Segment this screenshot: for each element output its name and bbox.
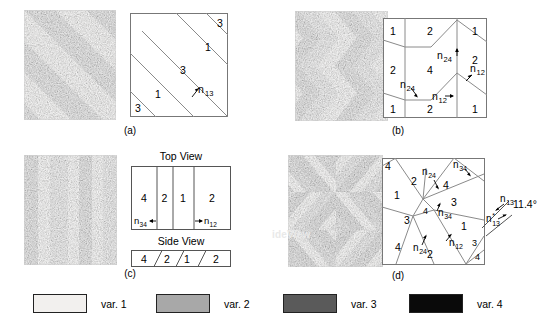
svg-text:13: 13 xyxy=(492,220,500,227)
region-label: 3 xyxy=(404,214,410,226)
svg-text:n: n xyxy=(449,237,455,248)
region-label: 3 xyxy=(180,64,186,76)
region-label: 1 xyxy=(155,88,161,100)
svg-text:n: n xyxy=(500,193,506,204)
schematic-d: 4 2 4 1 3 3 4 1 4 2 3 4 n 24 xyxy=(382,158,540,268)
legend-swatch-var-2 xyxy=(156,294,210,313)
legend-label-var-4: var. 4 xyxy=(477,298,503,310)
region-label: 4 xyxy=(141,253,147,265)
svg-text:12: 12 xyxy=(455,243,463,250)
region-label: 3 xyxy=(451,196,457,208)
region-label: 2 xyxy=(209,192,215,204)
svg-text:n: n xyxy=(134,215,139,226)
legend-swatch-var-1 xyxy=(33,294,87,313)
region-label: 1 xyxy=(184,253,190,265)
svg-text:24: 24 xyxy=(407,84,415,93)
annotation-n13-star: n * 13 xyxy=(486,212,507,227)
svg-text:n: n xyxy=(453,159,459,170)
region-label: 4 xyxy=(427,64,433,76)
svg-text:*: * xyxy=(492,212,495,219)
region-label: 2 xyxy=(427,103,433,115)
svg-text:n: n xyxy=(432,90,438,102)
legend-label-var-3: var. 3 xyxy=(351,298,377,310)
region-label: 2 xyxy=(213,253,219,265)
legend-item-var-2: var. 2 xyxy=(156,294,250,313)
region-label: 3 xyxy=(472,238,477,248)
svg-text:n: n xyxy=(438,207,444,218)
region-label: 1 xyxy=(472,103,478,115)
side-view-box: 4 2 1 2 xyxy=(132,251,231,267)
region-label: 2 xyxy=(411,175,417,187)
micrograph-d xyxy=(288,155,383,267)
micrograph-c xyxy=(24,155,117,265)
side-view-title: Side View xyxy=(158,235,205,247)
micrograph-a xyxy=(24,10,116,120)
region-label: 1 xyxy=(472,25,478,37)
region-label: 2 xyxy=(427,248,433,260)
svg-text:24: 24 xyxy=(428,172,436,179)
svg-text:n: n xyxy=(198,83,204,95)
angle-annotation-group: n 13 n * 13 11.4° xyxy=(482,193,537,236)
svg-text:24: 24 xyxy=(419,248,427,255)
region-label: 4 xyxy=(141,192,147,204)
svg-text:34: 34 xyxy=(459,165,467,172)
region-label: 1 xyxy=(180,192,186,204)
top-view-title: Top View xyxy=(160,150,203,162)
svg-text:34: 34 xyxy=(444,213,452,220)
caption-c: (c) xyxy=(80,268,180,279)
region-label: 2 xyxy=(390,64,396,76)
region-label: 1 xyxy=(461,220,467,232)
svg-text:n: n xyxy=(422,166,428,177)
region-label: 1 xyxy=(390,25,396,37)
region-label: 2 xyxy=(427,25,433,37)
svg-text:n: n xyxy=(470,62,476,74)
legend-label-var-1: var. 1 xyxy=(101,298,127,310)
region-label: 4 xyxy=(475,252,480,262)
svg-text:n: n xyxy=(204,215,209,226)
svg-text:34: 34 xyxy=(140,221,148,228)
region-label: 1 xyxy=(394,189,400,201)
caption-a: (a) xyxy=(80,125,180,136)
legend-item-var-3: var. 3 xyxy=(283,294,377,313)
region-label: 2 xyxy=(162,192,168,204)
svg-text:n: n xyxy=(400,78,406,90)
svg-text:12: 12 xyxy=(210,221,218,228)
region-label: 1 xyxy=(390,103,396,115)
region-label: 4 xyxy=(395,241,401,253)
legend-item-var-4: var. 4 xyxy=(409,294,503,313)
svg-text:12: 12 xyxy=(439,96,447,105)
region-label: 4 xyxy=(443,179,449,191)
region-label: 3 xyxy=(135,102,141,114)
region-label: 4 xyxy=(385,160,391,172)
legend-item-var-1: var. 1 xyxy=(33,294,127,313)
svg-text:n: n xyxy=(437,49,443,61)
svg-text:12: 12 xyxy=(477,68,485,77)
svg-text:n: n xyxy=(413,242,419,253)
region-label: 4 xyxy=(423,206,428,216)
region-label: 3 xyxy=(217,17,223,29)
top-view-box: 4 2 1 2 n 34 n 12 xyxy=(132,167,231,230)
svg-text:n: n xyxy=(486,213,492,224)
variant-legend: var. 1 var. 2 var. 3 var. 4 xyxy=(0,286,543,327)
micrograph-d-overlay-text: ideView xyxy=(272,229,310,240)
legend-swatch-var-3 xyxy=(283,294,337,313)
legend-swatch-var-4 xyxy=(409,294,463,313)
region-label: 1 xyxy=(205,41,211,53)
micrograph-b xyxy=(295,11,388,121)
region-label: 2 xyxy=(164,253,170,265)
legend-label-var-2: var. 2 xyxy=(224,298,250,310)
svg-text:13: 13 xyxy=(205,89,213,98)
angle-label: 11.4° xyxy=(513,198,537,210)
caption-b: (b) xyxy=(348,125,448,136)
schematic-a: 3 1 3 1 3 n 13 xyxy=(130,13,228,117)
schematic-c: Top View 4 2 1 2 n 34 xyxy=(128,150,234,270)
annotation-n13: n 13 xyxy=(495,193,514,211)
schematic-b: 1 2 1 2 4 2 1 2 1 n 24 n 1 xyxy=(383,18,487,118)
caption-d: (d) xyxy=(348,270,448,281)
svg-text:24: 24 xyxy=(444,55,452,64)
